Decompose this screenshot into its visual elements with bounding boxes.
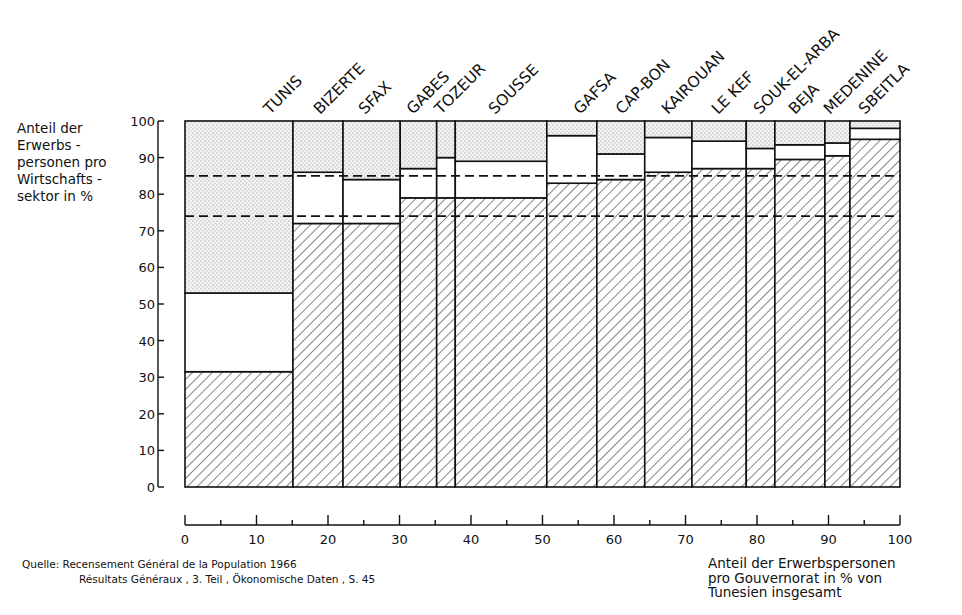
y-axis-title-line: Erwerbs - — [17, 137, 107, 154]
chart: 0102030405060708090100 01020304050607080… — [0, 0, 962, 615]
bar-segment-hatched — [343, 223, 400, 487]
bar-segment-blank — [850, 128, 900, 139]
x-tick-label: 30 — [391, 532, 408, 547]
x-tick-label: 60 — [606, 532, 623, 547]
bar-segment-hatched — [400, 198, 436, 487]
bar-segment-dotted — [455, 121, 547, 161]
y-tick-label: 60 — [138, 260, 155, 275]
bar-segment-blank — [455, 161, 547, 198]
category-label: GAFSA — [570, 68, 620, 118]
bar-segment-blank — [645, 137, 692, 172]
y-axis-title-line: personen pro — [17, 154, 107, 171]
y-axis-title-line: Anteil der — [17, 120, 107, 137]
bar-segment-hatched — [645, 172, 692, 487]
y-tick-label: 70 — [138, 224, 155, 239]
x-tick-label: 80 — [749, 532, 766, 547]
bar-segment-blank — [775, 145, 825, 160]
bar-segment-dotted — [437, 121, 456, 158]
x-axis-title-line: pro Gouvernorat in % von — [708, 571, 896, 586]
bar-segment-hatched — [775, 159, 825, 487]
x-tick-label: 70 — [677, 532, 694, 547]
bar-segment-blank — [825, 143, 850, 156]
bar-segment-blank — [185, 293, 293, 372]
bar-segment-blank — [437, 158, 456, 198]
bar-segment-dotted — [547, 121, 597, 136]
y-tick-label: 10 — [138, 443, 155, 458]
y-tick-label: 50 — [138, 297, 155, 312]
bar-segment-blank — [400, 169, 436, 198]
x-axis: 0102030405060708090100 — [181, 515, 913, 547]
x-tick-label: 90 — [820, 532, 837, 547]
y-axis: 0102030405060708090100 — [130, 114, 164, 495]
bar-segment-dotted — [692, 121, 746, 141]
y-tick-label: 40 — [138, 334, 155, 349]
y-tick-label: 100 — [130, 114, 155, 129]
x-tick-label: 0 — [181, 532, 189, 547]
bar-segment-hatched — [825, 156, 850, 487]
y-axis-title-line: sektor in % — [17, 188, 107, 205]
y-tick-label: 20 — [138, 407, 155, 422]
y-tick-label: 80 — [138, 187, 155, 202]
category-label: TUNIS — [259, 72, 306, 119]
source-line-1: Recensement Général de la Population 196… — [63, 558, 297, 570]
bar-segment-dotted — [597, 121, 645, 154]
bar-segment-dotted — [293, 121, 343, 172]
bar-segment-dotted — [746, 121, 775, 148]
x-tick-label: 40 — [463, 532, 480, 547]
y-axis-title: Anteil der Erwerbs - personen pro Wirtsc… — [17, 120, 107, 205]
y-tick-label: 90 — [138, 151, 155, 166]
bar-segment-hatched — [185, 372, 293, 487]
x-tick-label: 20 — [320, 532, 337, 547]
bar-segment-hatched — [850, 139, 900, 487]
source-line-2: Résultats Généraux , 3. Teil , Ökonomisc… — [22, 572, 375, 587]
x-tick-label: 100 — [888, 532, 913, 547]
bar-segment-blank — [692, 141, 746, 168]
bar-segment-hatched — [455, 198, 547, 487]
y-axis-title-line: Wirtschafts - — [17, 171, 107, 188]
bar-segment-dotted — [400, 121, 436, 169]
bar-segment-hatched — [437, 198, 456, 487]
bar-segment-dotted — [343, 121, 400, 180]
source-label: Quelle: — [22, 558, 59, 570]
category-label: SFAX — [355, 78, 395, 118]
bar-segment-dotted — [825, 121, 850, 143]
x-axis-title-line: Tunesien insgesamt — [708, 585, 896, 600]
category-label: LE KEF — [708, 68, 758, 118]
x-axis-title-line: Anteil der Erwerbspersonen — [708, 556, 896, 571]
bar-segment-dotted — [185, 121, 293, 293]
bar-segment-hatched — [547, 183, 597, 487]
source-note: Quelle: Recensement Général de la Popula… — [22, 557, 375, 587]
bar-segment-hatched — [293, 223, 343, 487]
bar-segment-dotted — [850, 121, 900, 128]
bar-segment-dotted — [775, 121, 825, 145]
x-tick-label: 10 — [248, 532, 265, 547]
x-axis-title: Anteil der Erwerbspersonen pro Gouvernor… — [708, 556, 896, 600]
category-label: SOUSSE — [485, 61, 542, 118]
category-labels: TUNISBIZERTESFAXGABESTOZEURSOUSSEGAFSACA… — [259, 25, 913, 119]
bar-segment-blank — [746, 148, 775, 168]
x-tick-label: 50 — [534, 532, 551, 547]
bar-segment-dotted — [645, 121, 692, 137]
y-tick-label: 30 — [138, 370, 155, 385]
bar-segment-hatched — [597, 180, 645, 487]
y-tick-label: 0 — [147, 480, 155, 495]
